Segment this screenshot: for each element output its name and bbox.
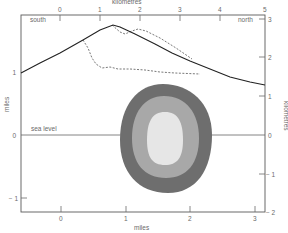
top-axis-ticks: 0 1 2 3 4 5 xyxy=(58,6,267,21)
bottom-axis-ticks: 0 1 2 3 xyxy=(59,206,257,222)
right-tick-minus-2: − 2 xyxy=(266,209,276,216)
top-tick-3: 3 xyxy=(178,6,182,13)
south-label: south xyxy=(30,16,46,23)
current-surface-profile xyxy=(21,25,265,85)
north-label: north xyxy=(238,16,253,23)
left-tick-1: 1 xyxy=(12,69,16,76)
sea-level-label: sea level xyxy=(31,125,57,132)
right-axis-label: kilometres xyxy=(283,101,288,131)
dashed-collapse-profile xyxy=(83,40,200,74)
right-tick-minus-1: − 1 xyxy=(266,171,276,178)
bottom-tick-3: 3 xyxy=(253,215,257,222)
bottom-tick-1: 1 xyxy=(124,215,128,222)
left-axis-ticks: 1 0 − 1 xyxy=(9,69,27,202)
left-tick-minus-1: − 1 xyxy=(9,195,19,202)
bottom-tick-0: 0 xyxy=(59,215,63,222)
inner-core xyxy=(147,112,183,165)
right-tick-3: 3 xyxy=(268,16,272,23)
bottom-axis-label: miles xyxy=(134,224,150,231)
right-tick-0: 0 xyxy=(268,132,272,139)
right-tick-1: 1 xyxy=(268,93,272,100)
left-axis-label: miles xyxy=(3,96,10,112)
top-tick-2: 2 xyxy=(138,6,142,13)
top-tick-1: 1 xyxy=(98,6,102,13)
right-axis-ticks: 3 2 1 0 − 1 − 2 xyxy=(259,16,276,216)
volcano-cross-section-diagram: kilometres 0 1 2 3 4 5 0 1 2 3 miles 1 0… xyxy=(0,0,288,233)
magma-chamber xyxy=(120,84,212,193)
top-axis-label: kilometres xyxy=(112,0,142,5)
top-tick-4: 4 xyxy=(218,6,222,13)
left-tick-0: 0 xyxy=(12,132,16,139)
top-tick-0: 0 xyxy=(58,6,62,13)
top-tick-5: 5 xyxy=(263,6,267,13)
bottom-tick-2: 2 xyxy=(188,215,192,222)
right-tick-2: 2 xyxy=(268,54,272,61)
